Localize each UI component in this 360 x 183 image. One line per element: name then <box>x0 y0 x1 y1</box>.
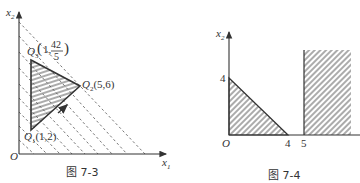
direction-arrow <box>58 105 67 113</box>
figures-canvas: x2 x1 O Q3 ( 1, 42 5 ) Q2(5,6) Q1(1,2) 图… <box>0 0 360 183</box>
point-q3-coord-close: ) <box>64 40 69 57</box>
x-axis-label: x1 <box>161 156 170 171</box>
caption-7-4: 图 7-4 <box>268 169 300 182</box>
point-q3-frac-den: 5 <box>54 51 59 62</box>
y-axis-label-7-4: x2 <box>215 27 225 42</box>
y-axis-label: x2 <box>5 6 15 21</box>
figure-7-4: x2 4 O 4 5 图 7-4 <box>215 27 360 182</box>
point-q3-frac-num: 42 <box>51 39 61 50</box>
point-q3-coord-open: ( <box>37 40 42 57</box>
x-tick-4: 4 <box>285 137 291 149</box>
point-q2-label: Q2(5,6) <box>82 78 115 93</box>
feasible-triangle-7-4 <box>229 78 288 135</box>
origin-label: O <box>10 150 18 162</box>
feasible-triangle <box>31 60 80 130</box>
caption-7-3: 图 7-3 <box>66 166 98 179</box>
y-tick-4: 4 <box>220 72 226 84</box>
x-tick-5: 5 <box>301 137 307 149</box>
feasible-strip-7-4 <box>304 50 351 135</box>
origin-label-7-4: O <box>222 137 230 149</box>
figure-7-3: x2 x1 O Q3 ( 1, 42 5 ) Q2(5,6) Q1(1,2) 图… <box>5 6 170 179</box>
point-q1-label: Q1(1,2) <box>24 130 57 145</box>
